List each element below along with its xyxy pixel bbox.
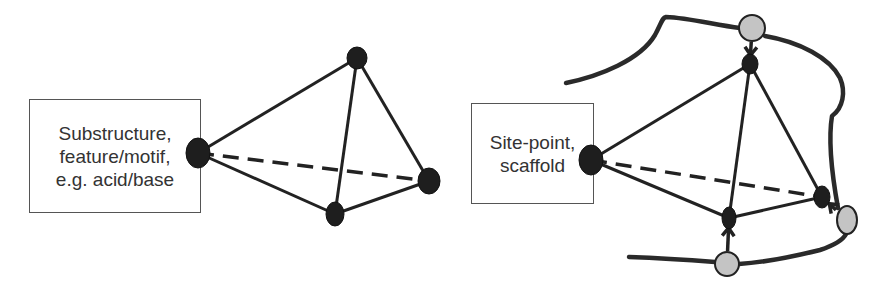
left-edge-solid: [335, 58, 357, 214]
left-pharmacophore-node: [326, 202, 344, 226]
left-edge-solid: [198, 58, 357, 153]
right-pharmacophore-node: [814, 186, 830, 208]
receptor-site-node: [837, 206, 857, 234]
right-pharmacophore-node: [579, 145, 603, 175]
receptor-site-node: [715, 252, 739, 276]
left-pharmacophore-node: [418, 168, 440, 194]
receptor-surface-outline: [566, 17, 846, 264]
edges-layer: [198, 58, 822, 218]
right-pharmacophore-node: [742, 54, 758, 74]
receptor-surface-top: [566, 17, 740, 83]
receptor-surface-right: [765, 36, 843, 208]
left-edge-solid: [357, 58, 429, 181]
right-edge-solid: [729, 197, 822, 218]
right-edge-dashed: [591, 160, 822, 197]
left-edge-solid: [335, 181, 429, 214]
right-pharmacophore-node: [722, 207, 736, 229]
right-edge-solid: [591, 160, 729, 218]
right-edge-solid: [729, 64, 750, 218]
left-pharmacophore-node: [347, 47, 367, 69]
left-pharmacophore-node: [186, 138, 210, 168]
right-edge-solid: [591, 64, 750, 160]
pharmacophore-diagram: [0, 0, 886, 286]
nodes-layer: [186, 15, 857, 276]
left-edge-solid: [198, 153, 335, 214]
receptor-site-node: [739, 15, 765, 41]
right-edge-solid: [750, 64, 822, 197]
